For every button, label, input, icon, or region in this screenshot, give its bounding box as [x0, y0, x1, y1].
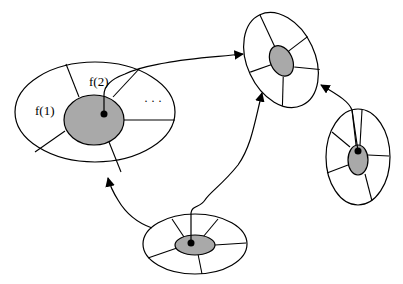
- node-large-ellipse: f(1) f(2) · · ·: [15, 62, 175, 172]
- core-bottom: [175, 235, 215, 255]
- node-bottom-ellipse: [143, 214, 247, 274]
- label-ellipsis: · · ·: [144, 94, 162, 108]
- edge-bottom-to-large: [108, 178, 152, 228]
- diagram-canvas: f(1) f(2) · · ·: [0, 0, 403, 284]
- node-top-right-ellipse: [229, 0, 333, 119]
- label-f2: f(2): [89, 74, 109, 89]
- core-large: [64, 95, 124, 145]
- label-f1: f(1): [35, 103, 55, 118]
- node-right-ellipse: [326, 109, 390, 205]
